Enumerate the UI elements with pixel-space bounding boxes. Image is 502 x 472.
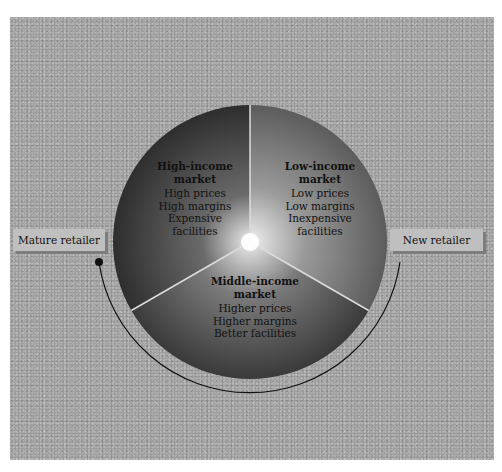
middle-income-text: Middle-income market Higher prices Highe… [190, 275, 320, 340]
high-income-attr-3: Expensive [140, 212, 250, 225]
low-income-text: Low-income market Low prices Low margins… [265, 160, 375, 237]
new-retailer-label: New retailer [390, 229, 483, 251]
high-income-attr-2: High margins [140, 200, 250, 213]
high-income-attr-4: facilities [140, 225, 250, 238]
low-income-attr-3: Inexpensive [265, 212, 375, 225]
middle-income-title-line-1: Middle-income [190, 275, 320, 288]
low-income-attr-1: Low prices [265, 187, 375, 200]
high-income-title: High-income market [140, 160, 250, 185]
start-dot [95, 258, 103, 266]
high-income-text: High-income market High prices High marg… [140, 160, 250, 237]
high-income-attr-1: High prices [140, 187, 250, 200]
low-income-attr-2: Low margins [265, 200, 375, 213]
middle-income-attr-2: Higher margins [190, 315, 320, 328]
low-income-title-line-1: Low-income [265, 160, 375, 173]
mature-retailer-label: Mature retailer [13, 229, 105, 251]
middle-income-title-line-2: market [190, 288, 320, 301]
middle-income-title: Middle-income market [190, 275, 320, 300]
low-income-title-line-2: market [265, 173, 375, 186]
low-income-title: Low-income market [265, 160, 375, 185]
low-income-attr-4: facilities [265, 225, 375, 238]
middle-income-attr-3: Better facilities [190, 327, 320, 340]
high-income-title-line-1: High-income [140, 160, 250, 173]
high-income-title-line-2: market [140, 173, 250, 186]
middle-income-attr-1: Higher prices [190, 302, 320, 315]
